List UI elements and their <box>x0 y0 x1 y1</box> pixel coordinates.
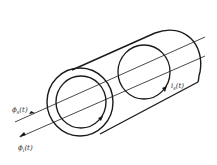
cylinder-diagram: ϕs(t) ϕi(t) is(t) <box>0 0 217 165</box>
front-inner-circle <box>56 76 106 128</box>
flux-s-label: ϕs(t) <box>12 106 28 115</box>
flux-line-upper <box>15 37 205 122</box>
arrows <box>19 86 167 137</box>
flux-i-label: ϕi(t) <box>18 144 33 153</box>
cylinder-top-edge <box>72 33 155 70</box>
current-label: is(t) <box>171 82 184 91</box>
front-outer-circle <box>47 68 113 136</box>
front-annulus <box>47 68 113 136</box>
